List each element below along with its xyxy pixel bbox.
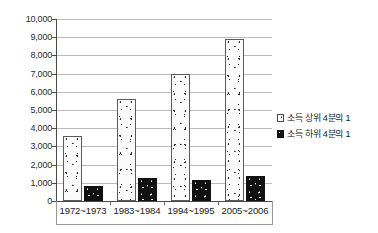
y-axis: 01,0002,0003,0004,0005,0006,0007,0008,00… — [0, 19, 52, 202]
y-axis-tick-label: 9,000 — [6, 33, 52, 42]
y-axis-tick-label: 8,000 — [6, 51, 52, 60]
legend-item-top-quartile: 소득 상위 4분의 1 — [277, 110, 377, 126]
y-axis-line — [56, 19, 57, 202]
x-axis-tick-label: 1972~1973 — [56, 205, 110, 217]
x-axis-tick-label: 1994~1995 — [164, 205, 218, 217]
bar-bottom-quartile-1972~1973 — [84, 186, 103, 201]
y-axis-tick-label: 7,000 — [6, 70, 52, 79]
y-axis-tick-label: 10,000 — [6, 15, 52, 24]
y-axis-tick-label: 3,000 — [6, 142, 52, 151]
x-axis-tick-label: 1983~1984 — [110, 205, 164, 217]
legend-label-top-quartile: 소득 상위 4분의 1 — [287, 113, 350, 123]
bar-bottom-quartile-1983~1984 — [138, 178, 157, 201]
x-axis-labels: 1972~19731983~19841994~19952005~2006 — [56, 205, 273, 221]
chart-legend: 소득 상위 4분의 1 소득 하위 4분의 1 — [277, 110, 377, 142]
gridline — [56, 37, 272, 38]
bar-bottom-quartile-1994~1995 — [192, 180, 211, 201]
y-axis-tick-label: 6,000 — [6, 88, 52, 97]
y-axis-tick-label: 2,000 — [6, 161, 52, 170]
x-axis-tick-mark — [164, 201, 165, 205]
y-axis-tick-label: 1,000 — [6, 179, 52, 188]
chart-frame-bottom — [56, 224, 273, 225]
legend-swatch-icon-bottom-quartile — [277, 130, 284, 138]
legend-label-bottom-quartile: 소득 하위 4분의 1 — [287, 129, 350, 139]
y-axis-tick-label: 5,000 — [6, 106, 52, 115]
x-axis-tick-mark — [218, 201, 219, 205]
bar-top-quartile-1983~1984 — [117, 99, 136, 201]
plot-area — [56, 19, 272, 201]
y-axis-tick-label: 0 — [6, 197, 52, 206]
legend-item-bottom-quartile: 소득 하위 4분의 1 — [277, 126, 377, 142]
legend-swatch-icon-top-quartile — [277, 114, 284, 122]
x-axis-tick-mark — [110, 201, 111, 205]
y-axis-tick-label: 4,000 — [6, 124, 52, 133]
bar-top-quartile-1972~1973 — [63, 136, 82, 201]
bar-bottom-quartile-2005~2006 — [246, 176, 265, 201]
bar-top-quartile-2005~2006 — [225, 39, 244, 201]
x-axis-tick-label: 2005~2006 — [218, 205, 272, 217]
gridline — [56, 19, 272, 20]
bar-top-quartile-1994~1995 — [171, 74, 190, 201]
bar-chart: 01,0002,0003,0004,0005,0006,0007,0008,00… — [0, 0, 378, 233]
